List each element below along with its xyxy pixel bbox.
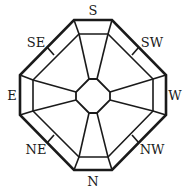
label-bottom-left: NE	[26, 142, 47, 157]
center-octagon	[76, 79, 110, 113]
label-left: E	[7, 88, 17, 103]
label-bottom: N	[87, 174, 98, 189]
label-top: S	[89, 3, 98, 18]
label-right: W	[168, 88, 182, 103]
compass-diagram: S SW W NW N NE E SE	[0, 0, 188, 190]
label-bottom-right: NW	[140, 142, 165, 157]
label-top-left: SE	[27, 35, 45, 50]
label-top-right: SW	[141, 35, 164, 50]
